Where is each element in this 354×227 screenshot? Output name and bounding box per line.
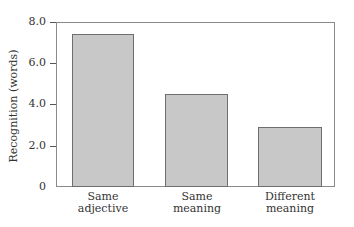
bar-same-meaning	[165, 94, 228, 187]
y-tick-label: 8.0	[2, 16, 46, 28]
bar-different-meaning	[258, 127, 322, 187]
y-tick-8	[50, 22, 56, 23]
y-tick-6	[50, 63, 56, 64]
x-label-line: adjective	[58, 203, 148, 215]
y-tick-label: 6.0	[2, 57, 46, 69]
x-label-line: meaning	[152, 203, 242, 215]
x-category-label: Same adjective	[58, 191, 148, 215]
y-tick-label: 0	[2, 181, 46, 193]
bar-same-adjective	[72, 34, 134, 187]
y-tick-label: 4.0	[2, 98, 46, 110]
x-category-label: Different meaning	[245, 191, 335, 215]
y-tick-4	[50, 104, 56, 105]
y-tick-2	[50, 146, 56, 147]
y-tick-label: 2.0	[2, 140, 46, 152]
x-category-label: Same meaning	[152, 191, 242, 215]
x-label-line: meaning	[245, 203, 335, 215]
